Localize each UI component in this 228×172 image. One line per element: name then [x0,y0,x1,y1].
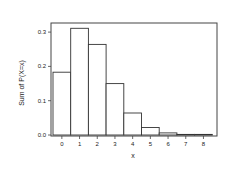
y-tick-label: 0.3 [38,29,47,35]
bar-0 [53,72,71,135]
x-tick-label: 3 [113,141,117,147]
bars [53,28,212,135]
bar-2 [88,44,106,135]
bar-5 [142,128,160,136]
x-tick-label: 6 [166,141,170,147]
bar-3 [106,84,124,135]
bar-8 [195,134,213,135]
bar-chart: 0.00.10.20.3 012345678 x Sum of P(X=x) [0,0,228,172]
x-tick-label: 1 [78,141,82,147]
bar-6 [159,133,177,135]
bar-1 [71,28,89,135]
bar-4 [124,113,142,135]
x-tick-label: 2 [96,141,100,147]
y-tick-label: 0.2 [38,63,47,69]
x-tick-label: 8 [202,141,206,147]
y-axis-label: Sum of P(X=x) [18,60,26,106]
y-tick-label: 0.0 [38,132,47,138]
x-tick-label: 7 [184,141,188,147]
x-tick-label: 0 [60,141,64,147]
y-tick-label: 0.1 [38,98,47,104]
x-tick-label: 4 [131,141,135,147]
bar-7 [177,134,195,135]
x-axis: 012345678 [60,136,206,147]
x-axis-label: x [131,152,135,159]
y-axis: 0.00.10.20.3 [38,29,51,138]
x-tick-label: 5 [149,141,153,147]
